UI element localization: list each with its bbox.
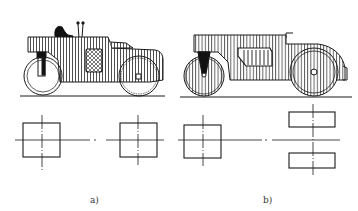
roller-b-window	[238, 48, 272, 66]
plan-b-rear-drum-right	[289, 153, 335, 168]
roller-a-side-view	[20, 22, 165, 96]
roller-a-grille	[86, 49, 102, 72]
roller-b-plan-view	[178, 104, 340, 175]
panel-a-label: a)	[90, 195, 99, 205]
roller-b-side-view	[180, 33, 352, 97]
roller-diagram	[0, 0, 358, 211]
plan-b-front-drum	[184, 125, 221, 158]
roller-a-plan-view	[15, 115, 164, 170]
seat-icon	[55, 26, 73, 38]
plan-b-rear-drum-left	[289, 112, 335, 127]
panel-b-label: b)	[263, 195, 272, 205]
